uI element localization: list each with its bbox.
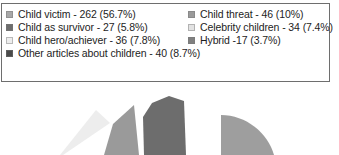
legend-swatch-celebrity-children bbox=[188, 24, 195, 31]
legend-item-other-articles[interactable]: Other articles about children - 40 (8.7%… bbox=[6, 47, 184, 60]
legend-label-child-hero-achiever: Child hero/achiever - 36 (7.8%) bbox=[18, 34, 160, 47]
legend-label-celebrity-children: Celebrity children - 34 (7.4%) bbox=[200, 21, 333, 34]
legend-column-right: Child threat - 46 (10%) Celebrity childr… bbox=[188, 8, 330, 47]
legend-item-child-victim[interactable]: Child victim - 262 (56.7%) bbox=[6, 8, 184, 21]
pie-slice-child-threat[interactable] bbox=[104, 105, 139, 155]
legend-label-other-articles: Other articles about children - 40 (8.7%… bbox=[18, 47, 200, 60]
legend-swatch-child-hero-achiever bbox=[6, 37, 13, 44]
pie-chart-figure: Child victim - 262 (56.7%) Child as surv… bbox=[0, 0, 339, 155]
legend-swatch-other-articles bbox=[6, 50, 13, 57]
pie-slice-child-victim[interactable] bbox=[143, 96, 186, 155]
legend-swatch-child-as-survivor bbox=[6, 24, 13, 31]
legend-item-child-threat[interactable]: Child threat - 46 (10%) bbox=[188, 8, 330, 21]
legend-swatch-hybrid bbox=[188, 37, 195, 44]
legend-label-hybrid: Hybrid -17 (3.7%) bbox=[200, 34, 281, 47]
legend-label-child-threat: Child threat - 46 (10%) bbox=[200, 8, 303, 21]
legend-item-celebrity-children[interactable]: Celebrity children - 34 (7.4%) bbox=[188, 21, 330, 34]
legend-label-child-as-survivor: Child as survivor - 27 (5.8%) bbox=[18, 21, 148, 34]
legend-item-child-hero-achiever[interactable]: Child hero/achiever - 36 (7.8%) bbox=[6, 34, 184, 47]
legend-column-left: Child victim - 262 (56.7%) Child as surv… bbox=[6, 8, 184, 60]
legend-item-child-as-survivor[interactable]: Child as survivor - 27 (5.8%) bbox=[6, 21, 184, 34]
pie-slice-child-hero-achiever[interactable] bbox=[60, 110, 110, 155]
legend-item-hybrid[interactable]: Hybrid -17 (3.7%) bbox=[188, 34, 330, 47]
pie-chart-plot bbox=[0, 83, 339, 155]
legend-swatch-child-threat bbox=[188, 11, 195, 18]
chart-legend: Child victim - 262 (56.7%) Child as surv… bbox=[1, 3, 330, 82]
pie-chart-svg bbox=[0, 83, 339, 155]
pie-slice-right-group[interactable] bbox=[221, 115, 274, 155]
legend-swatch-child-victim bbox=[6, 11, 13, 18]
legend-label-child-victim: Child victim - 262 (56.7%) bbox=[18, 8, 136, 21]
